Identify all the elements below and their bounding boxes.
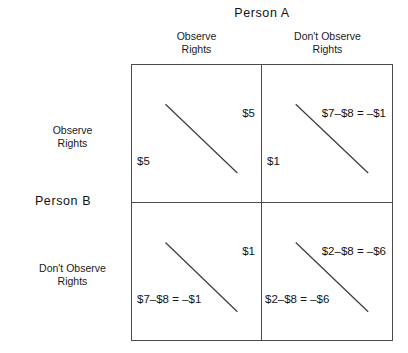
column-header-line-1: Observe — [131, 30, 262, 43]
row-header-line-1: Don't Observe — [20, 262, 125, 275]
person-b-title: Person B — [8, 194, 118, 208]
column-header-observe-rights: Observe Rights — [131, 30, 262, 55]
person-a-title: Person A — [131, 6, 393, 20]
column-header-dont-observe-rights: Don't Observe Rights — [262, 30, 393, 55]
payoff-person-a: $5 — [242, 107, 255, 119]
column-header-line-1: Don't Observe — [262, 30, 393, 43]
column-header-line-2: Rights — [131, 43, 262, 56]
row-header-line-1: Observe — [20, 124, 125, 137]
cell-diagonal-divider-icon — [262, 65, 392, 202]
matrix-cell-dontobserve-dontobserve: $2–$8 = –$6 $2–$8 = –$6 — [262, 203, 392, 341]
payoff-person-a: $2–$8 = –$6 — [322, 245, 386, 257]
payoff-person-b: $7–$8 = –$1 — [137, 293, 201, 305]
matrix-cell-dontobserve-observe: $1 $7–$8 = –$1 — [132, 203, 262, 341]
cell-diagonal-divider-icon — [132, 65, 261, 202]
payoff-person-a: $1 — [242, 245, 255, 257]
row-header-dont-observe-rights: Don't Observe Rights — [20, 262, 125, 287]
payoff-person-a: $7–$8 = –$1 — [322, 107, 386, 119]
payoff-matrix: $5 $5 $7–$8 = –$1 $1 $1 $7–$8 = –$1 $2–$… — [131, 64, 393, 341]
row-header-line-2: Rights — [20, 275, 125, 288]
cell-diagonal-divider-icon — [262, 203, 392, 341]
payoff-person-b: $1 — [267, 155, 280, 167]
payoff-person-b: $2–$8 = –$6 — [265, 293, 329, 305]
cell-diagonal-divider-icon — [132, 203, 261, 341]
column-header-line-2: Rights — [262, 43, 393, 56]
row-header-observe-rights: Observe Rights — [20, 124, 125, 149]
matrix-cell-observe-dontobserve: $7–$8 = –$1 $1 — [262, 65, 392, 203]
matrix-cell-observe-observe: $5 $5 — [132, 65, 262, 203]
payoff-person-b: $5 — [137, 155, 150, 167]
row-header-line-2: Rights — [20, 137, 125, 150]
